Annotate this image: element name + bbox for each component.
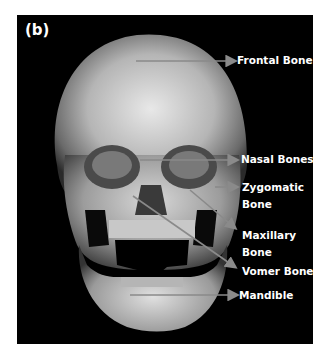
panel-label: (b) — [25, 21, 49, 39]
label-text: Nasal Bones — [241, 153, 313, 165]
label-mandible: Mandible — [239, 287, 293, 304]
label-text-line2: Bone — [242, 244, 296, 261]
label-zygomatic-bone: Zygomatic Bone — [242, 179, 304, 213]
label-text-line1: Zygomatic — [242, 179, 304, 196]
skull-figure-panel: (b) Frontal Bone Nasal Bones Zygomatic B… — [17, 15, 313, 344]
label-frontal-bone: Frontal Bone — [237, 52, 313, 69]
label-text: Vomer Bone — [242, 265, 313, 277]
label-text-line2: Bone — [242, 196, 304, 213]
label-vomer-bone: Vomer Bone — [242, 263, 313, 280]
mouth-gap — [115, 240, 189, 277]
label-maxillary-bone: Maxillary Bone — [242, 227, 296, 261]
label-text: Frontal Bone — [237, 54, 313, 66]
label-text-line1: Maxillary — [242, 227, 296, 244]
label-text: Mandible — [239, 289, 293, 301]
label-nasal-bones: Nasal Bones — [241, 151, 313, 168]
